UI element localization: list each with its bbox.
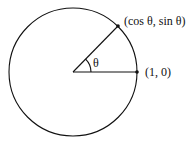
point-one-zero [135, 70, 139, 74]
angle-arc [86, 59, 91, 72]
point-label-cos-sin: (cos θ, sin θ) [124, 14, 186, 28]
point-label-one-zero: (1, 0) [145, 65, 171, 79]
angle-label: θ [93, 56, 99, 70]
unit-circle-diagram: θ (cos θ, sin θ) (1, 0) [0, 0, 196, 145]
point-cos-sin [116, 24, 120, 28]
